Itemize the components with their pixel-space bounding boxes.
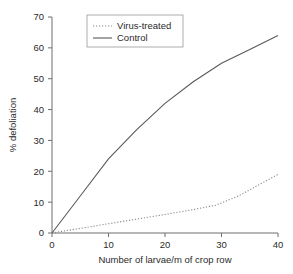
y-tick-label: 20	[33, 166, 44, 177]
line-chart: 010203040506070 010203040 Number of larv…	[0, 0, 293, 274]
y-tick-label: 50	[33, 73, 44, 84]
chart-figure: 010203040506070 010203040 Number of larv…	[0, 0, 293, 274]
y-axis-ticks: 010203040506070	[33, 11, 52, 238]
x-axis-ticks: 010203040	[49, 233, 283, 250]
y-axis-title: % defoliation	[7, 98, 18, 152]
x-tick-label: 30	[216, 239, 227, 250]
series-group	[52, 36, 278, 233]
x-tick-label: 40	[273, 239, 284, 250]
axis-group	[52, 17, 278, 233]
y-tick-label: 0	[39, 227, 44, 238]
series-line-control	[52, 36, 278, 233]
y-tick-label: 70	[33, 11, 44, 22]
series-line-virus-treated	[52, 174, 278, 233]
y-tick-label: 10	[33, 197, 44, 208]
legend-label-virus-treated: Virus-treated	[117, 20, 171, 31]
chart-legend: Virus-treated Control	[87, 15, 183, 47]
x-tick-label: 0	[49, 239, 54, 250]
x-axis-title: Number of larvae/m of crop row	[98, 254, 231, 265]
y-tick-label: 30	[33, 135, 44, 146]
y-tick-label: 40	[33, 104, 44, 115]
legend-label-control: Control	[117, 32, 148, 43]
y-tick-label: 60	[33, 42, 44, 53]
x-tick-label: 10	[103, 239, 114, 250]
x-tick-label: 20	[160, 239, 171, 250]
